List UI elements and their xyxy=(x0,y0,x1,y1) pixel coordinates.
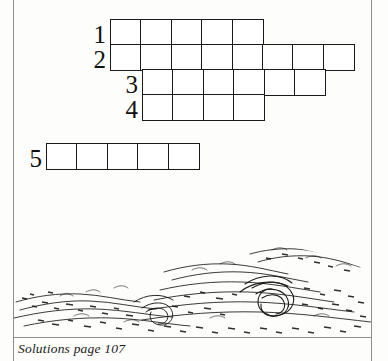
row-number-1: 1 xyxy=(82,22,106,47)
puzzle-cell[interactable] xyxy=(172,94,204,121)
puzzle-cell[interactable] xyxy=(107,143,139,170)
puzzle-row-5 xyxy=(46,143,200,170)
puzzle-cell[interactable] xyxy=(140,44,172,71)
row-number-4: 4 xyxy=(114,97,138,122)
row-number-2: 2 xyxy=(82,47,106,72)
puzzle-cell[interactable] xyxy=(137,143,169,170)
puzzle-row-1 xyxy=(110,19,264,46)
puzzle-row-4 xyxy=(142,94,265,121)
puzzle-cell[interactable] xyxy=(323,44,355,71)
stormy-sea-waves-illustration xyxy=(14,236,371,336)
puzzle-cell[interactable] xyxy=(294,69,326,96)
puzzle-cell[interactable] xyxy=(142,69,174,96)
puzzle-cell[interactable] xyxy=(232,44,264,71)
puzzle-cell[interactable] xyxy=(201,19,233,46)
waves-svg xyxy=(14,236,371,336)
solutions-page-caption: Solutions page 107 xyxy=(18,341,125,357)
puzzle-cell[interactable] xyxy=(233,69,265,96)
puzzle-cell[interactable] xyxy=(168,143,200,170)
puzzle-cell[interactable] xyxy=(171,19,203,46)
puzzle-cell[interactable] xyxy=(262,44,294,71)
puzzle-cell[interactable] xyxy=(264,69,296,96)
puzzle-cell[interactable] xyxy=(203,94,235,121)
puzzle-cell[interactable] xyxy=(172,69,204,96)
puzzle-page: 12345 xyxy=(0,0,388,361)
puzzle-row-3 xyxy=(142,69,326,96)
puzzle-cell[interactable] xyxy=(232,19,264,46)
puzzle-cell[interactable] xyxy=(233,94,265,121)
puzzle-cell[interactable] xyxy=(110,19,142,46)
puzzle-row-2 xyxy=(110,44,355,71)
puzzle-cell[interactable] xyxy=(142,94,174,121)
caption-divider-rule xyxy=(13,337,372,338)
row-number-5: 5 xyxy=(18,146,42,171)
puzzle-cell[interactable] xyxy=(292,44,324,71)
puzzle-cell[interactable] xyxy=(171,44,203,71)
puzzle-cell[interactable] xyxy=(110,44,142,71)
row-number-3: 3 xyxy=(114,72,138,97)
puzzle-cell[interactable] xyxy=(46,143,78,170)
puzzle-cell[interactable] xyxy=(76,143,108,170)
puzzle-cell[interactable] xyxy=(140,19,172,46)
crossword-grid: 12345 xyxy=(0,0,388,200)
puzzle-cell[interactable] xyxy=(203,69,235,96)
puzzle-cell[interactable] xyxy=(201,44,233,71)
